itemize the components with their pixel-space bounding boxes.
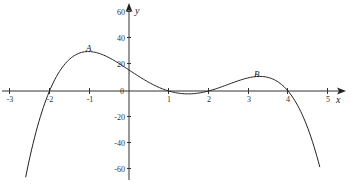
y-tick-label: 40 bbox=[117, 34, 125, 43]
point-a-label: A bbox=[85, 43, 92, 53]
y-axis-label: y bbox=[134, 5, 140, 16]
x-tick-label: 4 bbox=[286, 95, 290, 104]
y-tick-label: 60 bbox=[117, 8, 125, 17]
x-tick-label: -1 bbox=[87, 95, 94, 104]
origin-label: 0 bbox=[120, 87, 124, 96]
point-b-label: B bbox=[254, 69, 260, 79]
x-tick-label: -3 bbox=[7, 95, 14, 104]
x-tick-label: 2 bbox=[207, 95, 211, 104]
y-tick-label: -60 bbox=[114, 165, 125, 174]
function-graph: -3 -2 -1 1 2 3 4 5 0 60 40 20 -20 -40 -6… bbox=[0, 0, 356, 184]
y-tick-label: 20 bbox=[117, 60, 125, 69]
y-tick-label: -40 bbox=[114, 139, 125, 148]
function-curve bbox=[26, 52, 320, 178]
y-tick-label: -20 bbox=[114, 113, 125, 122]
x-tick-label: 3 bbox=[247, 95, 251, 104]
x-axis-label: x bbox=[335, 94, 341, 105]
x-tick-label: 5 bbox=[326, 95, 330, 104]
x-tick-label: 1 bbox=[167, 95, 171, 104]
